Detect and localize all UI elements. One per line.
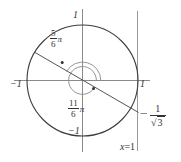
fraction-numerator: 11: [68, 99, 79, 108]
radicand-value: 3: [157, 116, 165, 129]
unit-circle-svg: [0, 0, 181, 162]
fraction-numerator: 1: [150, 104, 166, 115]
fraction-1-over-sqrt3: 1 √3: [150, 104, 166, 129]
fraction-denominator: √3: [150, 115, 166, 129]
axis-label-right: 1: [140, 79, 145, 89]
axis-label-top: 1: [73, 10, 78, 20]
sqrt-icon: √3: [151, 116, 165, 129]
label-x-equals-1: x=1: [120, 142, 135, 152]
fraction-11-over-6: 11 6: [68, 99, 79, 120]
angle-label-11pi-over-6: 11 6 π: [68, 99, 84, 120]
label-one-over-sqrt-three: 1 √3: [150, 104, 166, 129]
pi-symbol: π: [79, 105, 85, 114]
point-marker-11pi-6: [92, 87, 95, 90]
unit-circle-figure: 1 −1 −1 1 5 6 π 11 6 π 1 √3 x=1: [0, 0, 181, 162]
point-marker-5pi-6: [61, 61, 64, 64]
x-value: 1: [130, 141, 135, 152]
axis-label-left: −1: [10, 79, 22, 89]
axis-label-bottom: −1: [68, 126, 80, 136]
pi-symbol: π: [57, 35, 63, 44]
terminal-side-line: [35, 52, 139, 112]
angle-label-5pi-over-6: 5 6 π: [50, 29, 62, 50]
fraction-denominator: 6: [68, 108, 79, 119]
